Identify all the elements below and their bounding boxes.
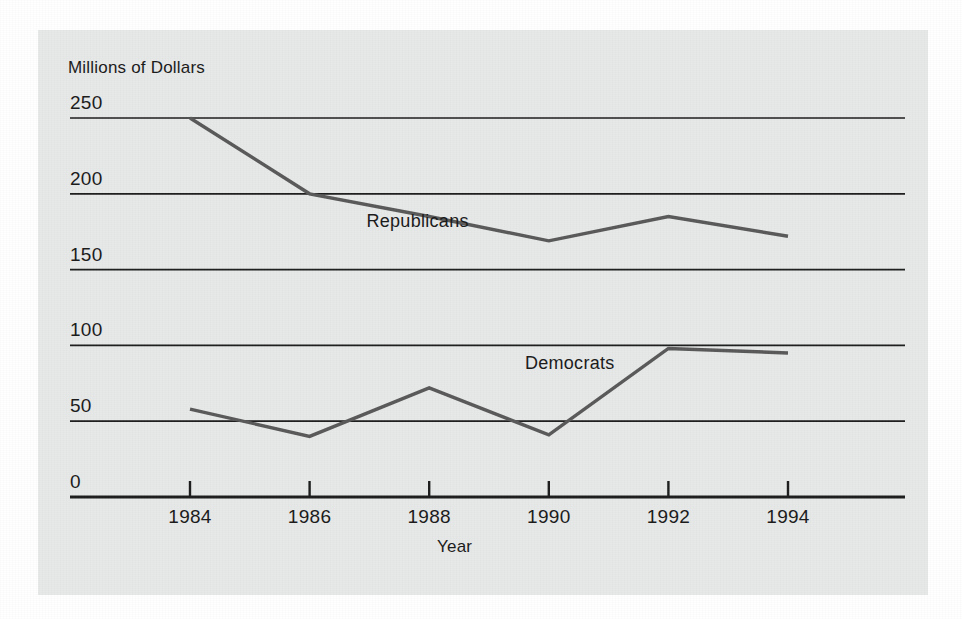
y-tick-label-100: 100 <box>70 319 103 341</box>
x-tick-label-1984: 1984 <box>150 506 230 528</box>
y-tick-label-0: 0 <box>70 471 81 493</box>
y-tick-label-150: 150 <box>70 244 103 266</box>
chart-figure: Millions of Dollars Year Republicans Dem… <box>0 0 962 619</box>
x-tick-label-1994: 1994 <box>748 506 828 528</box>
x-tick-label-1986: 1986 <box>270 506 350 528</box>
x-axis-ticks-group <box>190 481 788 496</box>
y-tick-label-250: 250 <box>70 92 103 114</box>
series-line-republicans <box>190 118 788 241</box>
gridlines-group <box>70 118 905 497</box>
y-tick-label-200: 200 <box>70 168 103 190</box>
x-tick-label-1990: 1990 <box>509 506 589 528</box>
x-axis-title: Year <box>437 537 472 557</box>
series-label-republicans: Republicans <box>366 211 468 232</box>
x-tick-label-1992: 1992 <box>628 506 708 528</box>
y-axis-title: Millions of Dollars <box>68 58 205 78</box>
series-line-democrats <box>190 348 788 436</box>
y-tick-label-50: 50 <box>70 395 92 417</box>
x-tick-label-1988: 1988 <box>389 506 469 528</box>
series-label-democrats: Democrats <box>525 353 615 374</box>
data-series-group <box>190 118 788 436</box>
